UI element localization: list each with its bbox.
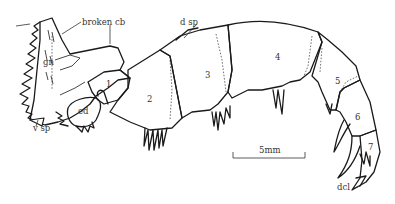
label-dcl: dcl — [337, 182, 350, 192]
scale-bar-label: 5mm — [259, 145, 281, 155]
basal-comb — [20, 18, 130, 126]
segment-number-3: 3 — [205, 70, 210, 80]
label-broken-cb: broken cb — [82, 17, 126, 27]
appendage-diagram: broken cb d sp gn ed v sp dcl 1 2 3 4 5 … — [0, 0, 395, 204]
label-gn: gn — [43, 57, 54, 67]
diagram-canvas: broken cb d sp gn ed v sp dcl 1 2 3 4 5 … — [0, 0, 395, 204]
segment-7 — [338, 130, 380, 190]
segment-number-1: 1 — [106, 79, 111, 89]
segment-5 — [312, 32, 360, 114]
leader-broken-cb-1 — [62, 22, 81, 34]
label-d-sp: d sp — [180, 17, 199, 27]
segment-number-4: 4 — [275, 52, 280, 62]
segment-4 — [228, 21, 322, 114]
label-v-sp: v sp — [32, 123, 51, 133]
label-ed: ed — [78, 106, 89, 116]
segment-number-6: 6 — [355, 112, 360, 122]
segment-3 — [160, 25, 232, 130]
leader-d-sp-left — [16, 24, 30, 26]
segment-number-7: 7 — [368, 142, 373, 152]
segment-number-5: 5 — [335, 76, 340, 86]
segment-number-2: 2 — [147, 94, 152, 104]
